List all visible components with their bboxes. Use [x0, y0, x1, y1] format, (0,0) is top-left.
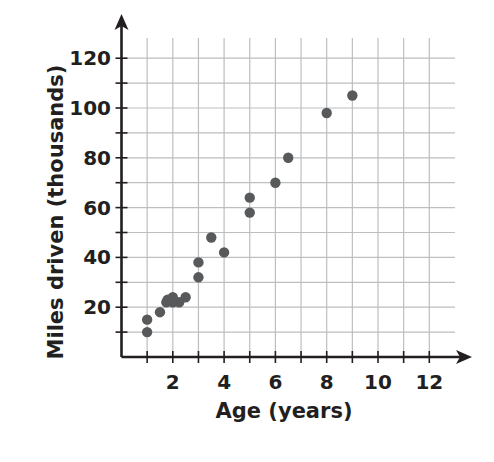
data-point: [193, 257, 203, 267]
x-tick-label: 12: [415, 370, 443, 394]
grid-lines: [122, 38, 456, 357]
data-point: [270, 178, 280, 188]
data-point: [142, 314, 152, 324]
y-tick-label: 60: [83, 196, 111, 220]
data-point: [245, 207, 255, 217]
data-point: [219, 247, 229, 257]
x-axis-title: Age (years): [216, 399, 353, 423]
y-tick-label: 20: [83, 295, 111, 319]
scatter-chart: 24681012 20406080100120 Age (years) Mile…: [0, 0, 494, 462]
axis-ticks: [116, 58, 430, 363]
x-tick-label: 2: [166, 370, 180, 394]
y-axis-title: Miles driven (thousands): [44, 65, 68, 360]
data-point: [245, 192, 255, 202]
y-tick-label: 100: [69, 96, 111, 120]
data-point: [206, 232, 216, 242]
data-point: [193, 272, 203, 282]
y-tick-label: 120: [69, 46, 111, 70]
y-tick-label: 80: [83, 146, 111, 170]
x-tick-label: 4: [217, 370, 231, 394]
x-tick-label: 10: [364, 370, 392, 394]
data-point: [347, 90, 357, 100]
data-point: [180, 292, 190, 302]
x-tick-labels: 24681012: [166, 370, 443, 394]
y-tick-label: 40: [83, 245, 111, 269]
data-point: [142, 327, 152, 337]
data-point: [283, 153, 293, 163]
x-tick-label: 8: [320, 370, 334, 394]
x-tick-label: 6: [268, 370, 282, 394]
axes: [115, 14, 473, 364]
data-point: [155, 307, 165, 317]
y-tick-labels: 20406080100120: [69, 46, 111, 319]
data-point: [322, 108, 332, 118]
